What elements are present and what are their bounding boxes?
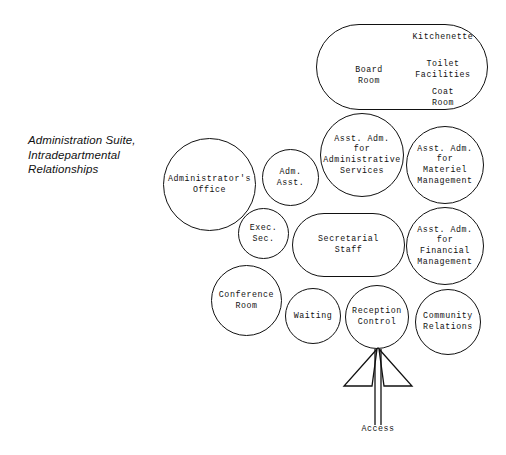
- node-label-administrators-office: Administrator's Office: [168, 174, 251, 195]
- access-arrow-icon: [330, 345, 426, 430]
- node-waiting[interactable]: Waiting: [285, 288, 341, 344]
- node-label-reception-control: Reception Control: [352, 306, 402, 327]
- node-asst-adm-materiel-management[interactable]: Asst. Adm. for Materiel Management: [406, 126, 484, 204]
- node-label-waiting: Waiting: [294, 311, 333, 322]
- node-conference-room[interactable]: Conference Room: [211, 265, 282, 336]
- node-label-asst-adm-administrative-services: Asst. Adm. for Administrative Services: [323, 134, 400, 176]
- node-label-community-relations: Community Relations: [423, 311, 473, 332]
- node-exec-sec[interactable]: Exec. Sec.: [238, 208, 289, 259]
- board-room-suite-shape: Board Room Kitchenette Toilet Facilities…: [316, 24, 488, 110]
- node-label-adm-asst: Adm. Asst.: [277, 167, 305, 188]
- node-administrators-office[interactable]: Administrator's Office: [163, 138, 256, 231]
- node-label-secretarial-staff: Secretarial Staff: [318, 234, 379, 255]
- diagram-canvas: Administration Suite, Intradepartmental …: [0, 0, 506, 455]
- node-label-asst-adm-materiel-management: Asst. Adm. for Materiel Management: [417, 144, 472, 186]
- node-label-kitchenette: Kitchenette: [399, 32, 487, 43]
- node-label-toilet-facilities: Toilet Facilities: [399, 59, 487, 80]
- node-reception-control[interactable]: Reception Control: [345, 285, 409, 349]
- node-adm-asst[interactable]: Adm. Asst.: [262, 149, 319, 206]
- node-label-coat-room: Coat Room: [399, 87, 487, 108]
- page-title: Administration Suite, Intradepartmental …: [28, 133, 178, 177]
- node-asst-adm-financial-management[interactable]: Asst. Adm. for Financial Management: [406, 207, 484, 285]
- access-arrow-label: Access: [330, 424, 426, 433]
- node-asst-adm-administrative-services[interactable]: Asst. Adm. for Administrative Services: [320, 113, 404, 197]
- node-label-exec-sec: Exec. Sec.: [250, 223, 278, 244]
- node-label-conference-room: Conference Room: [219, 290, 274, 311]
- node-label-asst-adm-financial-management: Asst. Adm. for Financial Management: [417, 225, 472, 267]
- node-secretarial-staff[interactable]: Secretarial Staff: [292, 213, 405, 277]
